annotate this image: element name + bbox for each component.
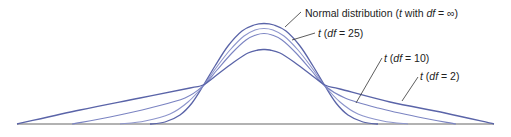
t-distribution-chart: Normal distribution (t with df = ∞)t (df… bbox=[0, 0, 511, 137]
leader-line bbox=[402, 77, 418, 101]
curve-df-10 bbox=[72, 34, 456, 125]
curve-label: t (df = 2) bbox=[420, 70, 459, 82]
leader-line bbox=[285, 12, 301, 27]
curve-label: t (df = 25) bbox=[318, 27, 363, 39]
curve-label: Normal distribution (t with df = ∞) bbox=[305, 7, 458, 19]
curve-df-25 bbox=[120, 29, 408, 125]
curve-label: t (df = 10) bbox=[384, 52, 429, 64]
curve-labels: Normal distribution (t with df = ∞)t (df… bbox=[305, 7, 459, 82]
leader-line bbox=[292, 33, 315, 40]
